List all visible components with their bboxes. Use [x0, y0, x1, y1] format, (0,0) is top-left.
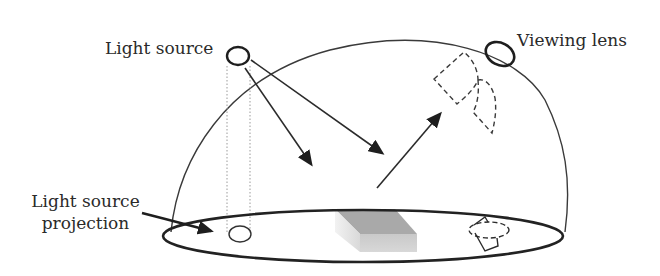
reflected-arrow	[377, 114, 440, 188]
lens-field-of-view-base	[469, 217, 509, 251]
dome-arc	[171, 41, 568, 232]
viewing-lens-label: Viewing lens	[517, 30, 627, 50]
incident-arrow-1	[245, 68, 311, 164]
light-dome-diagram: Light source Viewing lens Light source p…	[0, 0, 660, 276]
projection-label-line2: projection	[28, 212, 143, 234]
light-source-projection-shape	[229, 226, 251, 242]
projection-label-line1: Light source	[28, 190, 143, 212]
lens-field-of-view-dome	[434, 52, 496, 133]
light-source-projection-label: Light source projection	[28, 190, 143, 234]
sample-block	[335, 209, 417, 252]
light-source-shape	[227, 47, 249, 65]
viewing-lens-shape	[482, 37, 519, 71]
light-source-label: Light source	[105, 38, 213, 58]
